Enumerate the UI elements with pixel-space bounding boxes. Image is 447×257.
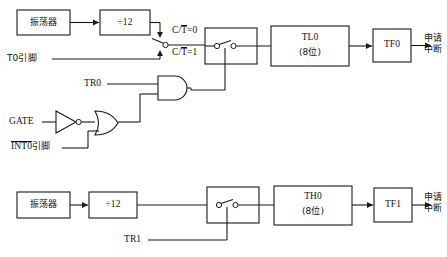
arrow-into-select-top-contact bbox=[157, 32, 163, 38]
arrow-tl0-to-tf0 bbox=[366, 43, 372, 49]
gated-switch-left-contact-bottom bbox=[216, 202, 221, 207]
gated-switch-right-contact-top bbox=[231, 43, 236, 48]
arrow-into-select-bottom-contact bbox=[157, 50, 163, 56]
oscillator-label-bottom: 振荡器 bbox=[17, 199, 70, 210]
select-label-ct-0-suffix: =0 bbox=[187, 25, 197, 35]
gated-switch-left-contact-top bbox=[214, 43, 219, 48]
divider-label-bottom: ÷12 bbox=[89, 199, 137, 210]
select-label-ct-1-suffix: =1 bbox=[187, 47, 197, 57]
t0-pin-label: T0引脚 bbox=[7, 53, 37, 64]
int0-pin-suffix: 引脚 bbox=[32, 141, 50, 151]
int0-pin-overline: INT0 bbox=[11, 141, 32, 152]
inverter-gate-symbol bbox=[56, 111, 76, 133]
interrupt-label-bottom-line2: 中断 bbox=[424, 203, 442, 214]
tr1-label: TR1 bbox=[124, 234, 141, 245]
arrow-osc-to-divider-bottom bbox=[82, 202, 88, 208]
arrow-osc-to-divider-top bbox=[93, 20, 99, 26]
select-label-ct-1: C/T=1 bbox=[172, 47, 197, 58]
select-label-ct-0: C/T=0 bbox=[172, 25, 197, 36]
inverter-bubble bbox=[76, 119, 81, 124]
interrupt-label-top-line1: 申请 bbox=[424, 33, 442, 44]
int0-pin-label: INT0引脚 bbox=[11, 141, 50, 152]
tr0-label: TR0 bbox=[84, 78, 101, 89]
and-gate-symbol bbox=[158, 76, 187, 100]
oscillator-label-top: 振荡器 bbox=[17, 17, 70, 28]
arrow-th0-to-tf1 bbox=[367, 202, 373, 208]
th0-label: TH0 bbox=[274, 191, 352, 202]
tl0-label: TL0 bbox=[271, 32, 349, 43]
th0-width-label: (8位) bbox=[274, 206, 352, 217]
select-switch-blade bbox=[152, 39, 164, 44]
select-switch-pivot bbox=[163, 42, 168, 47]
interrupt-label-top-line2: 中断 bbox=[424, 44, 442, 55]
interrupt-label-top: 申请 中断 bbox=[424, 33, 442, 54]
divider-label-top: ÷12 bbox=[100, 17, 150, 28]
tf1-label: TF1 bbox=[374, 199, 412, 210]
tf0-label: TF0 bbox=[373, 39, 411, 50]
tl0-width-label: (8位) bbox=[271, 47, 349, 58]
gated-switch-right-contact-bottom bbox=[233, 202, 238, 207]
timer-counter-diagram: 振荡器 ÷12 T0引脚 C/T=0 C/T=1 TR0 GATE INT0引脚… bbox=[0, 0, 447, 257]
gate-label: GATE bbox=[9, 116, 34, 127]
select-label-ct-1-prefix: C/ bbox=[172, 47, 181, 57]
interrupt-label-bottom: 申请 中断 bbox=[424, 192, 442, 213]
select-label-ct-0-prefix: C/ bbox=[172, 25, 181, 35]
interrupt-label-bottom-line1: 申请 bbox=[424, 192, 442, 203]
